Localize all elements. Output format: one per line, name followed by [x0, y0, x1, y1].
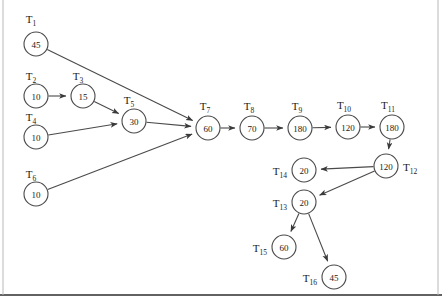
- node-value-t4: 10: [32, 133, 42, 143]
- node-label-t6: T6: [26, 168, 37, 183]
- node-value-t16: 45: [330, 273, 340, 283]
- edge-t5-to-t7: [146, 122, 191, 126]
- node-label-t14: T14: [273, 165, 287, 180]
- node-label-t15: T15: [253, 242, 267, 257]
- node-value-t15: 60: [280, 243, 290, 253]
- node-t12[interactable]: 120T12: [374, 154, 417, 178]
- node-label-t13: T13: [273, 197, 287, 212]
- node-label-t5: T5: [124, 94, 135, 109]
- node-label-t11: T11: [381, 99, 395, 114]
- node-t15[interactable]: 60T15: [253, 235, 296, 259]
- edge-t12-to-t13: [320, 171, 375, 195]
- node-t6[interactable]: 10T6: [24, 168, 48, 206]
- node-value-t7: 60: [204, 124, 214, 134]
- node-t10[interactable]: 120T10: [336, 99, 360, 139]
- edge-layer: [47, 49, 390, 261]
- node-t1[interactable]: 45T1: [24, 13, 48, 56]
- node-label-t16: T16: [303, 272, 317, 287]
- node-t4[interactable]: 10T4: [24, 111, 48, 149]
- node-label-t1: T1: [26, 13, 37, 28]
- node-label-t8: T8: [244, 100, 255, 115]
- node-label-t12: T12: [403, 161, 417, 176]
- node-label-t3: T3: [73, 70, 84, 85]
- edge-t13-to-t15: [291, 213, 299, 231]
- edge-t4-to-t5: [48, 124, 117, 135]
- node-value-t2: 10: [32, 92, 42, 102]
- diagram-page: 45T110T215T310T430T510T660T770T8180T9120…: [0, 0, 442, 303]
- node-value-t3: 15: [79, 92, 89, 102]
- node-label-t4: T4: [26, 111, 37, 126]
- node-value-t13: 20: [300, 198, 310, 208]
- edge-t12-to-t14: [321, 167, 374, 170]
- edge-t6-to-t7: [48, 134, 192, 189]
- node-label-t2: T2: [26, 70, 37, 85]
- edge-t11-to-t12: [389, 139, 391, 149]
- node-layer: 45T110T215T310T430T510T660T770T8180T9120…: [24, 13, 417, 289]
- node-value-t6: 10: [32, 190, 42, 200]
- page-frame: [0, 0, 442, 295]
- node-t16[interactable]: 45T16: [303, 265, 346, 289]
- edge-t1-to-t7: [47, 49, 192, 120]
- node-t14[interactable]: 20T14: [273, 158, 316, 182]
- node-t7[interactable]: 60T7: [196, 100, 220, 140]
- node-t13[interactable]: 20T13: [273, 190, 316, 214]
- edge-t3-to-t5: [94, 102, 119, 114]
- node-t5[interactable]: 30T5: [122, 94, 146, 133]
- node-value-t12: 120: [379, 162, 393, 172]
- node-label-t9: T9: [292, 100, 303, 115]
- node-value-t9: 180: [293, 124, 307, 134]
- node-value-t8: 70: [248, 124, 258, 134]
- node-t3[interactable]: 15T3: [71, 70, 95, 108]
- node-t8[interactable]: 70T8: [240, 100, 264, 140]
- task-dependency-graph: 45T110T215T310T430T510T660T770T8180T9120…: [0, 0, 442, 303]
- node-t11[interactable]: 180T11: [380, 99, 404, 139]
- edge-t13-to-t16: [309, 214, 328, 262]
- node-value-t1: 45: [32, 40, 42, 50]
- node-value-t14: 20: [300, 166, 310, 176]
- node-value-t5: 30: [130, 117, 140, 127]
- node-value-t10: 120: [341, 123, 355, 133]
- node-t9[interactable]: 180T9: [288, 100, 312, 140]
- node-label-t7: T7: [200, 100, 211, 115]
- node-value-t11: 180: [385, 123, 399, 133]
- node-label-t10: T10: [337, 99, 351, 114]
- node-t2[interactable]: 10T2: [24, 70, 48, 108]
